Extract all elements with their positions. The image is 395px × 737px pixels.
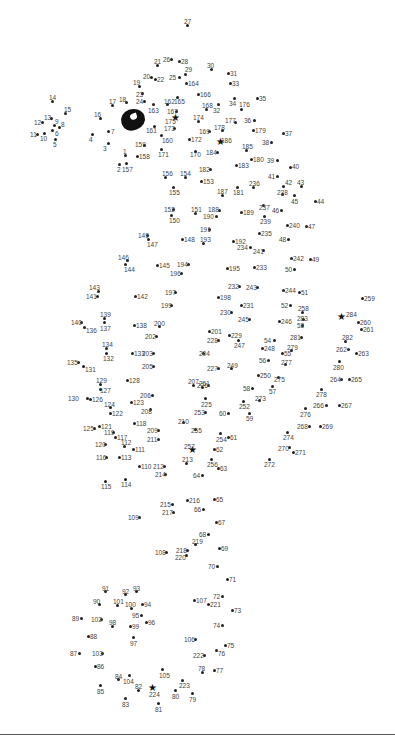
dot-number-label: 8 (61, 121, 65, 128)
dot-number-label: 83 (122, 701, 129, 708)
dot-number-label: 190 (203, 213, 214, 220)
dot-number-label: 196 (170, 270, 181, 277)
dot-number-label: 101 (113, 598, 124, 605)
dot-number-label: 188 (208, 206, 219, 213)
dot-number-label: 14 (49, 94, 56, 101)
dot-number-label: 128 (129, 377, 140, 384)
dot-number-label: 218 (176, 547, 187, 554)
dot-point (157, 438, 160, 441)
dot-number-label: 135 (67, 359, 78, 366)
dot-number-label: 68 (199, 531, 206, 538)
dot-number-label: 100 (125, 601, 136, 608)
dot-number-label: 284 (346, 311, 357, 318)
dot-number-label: 147 (147, 241, 158, 248)
dot-number-label: 143 (89, 284, 100, 291)
dot-number-label: 159 (135, 141, 146, 148)
dot-number-label: 182 (199, 166, 210, 173)
dot-number-label: 139 (100, 311, 111, 318)
dot-number-label: 9 (55, 118, 59, 125)
eye-shape (118, 106, 148, 134)
dot-point (280, 209, 283, 212)
dot-number-label: 149 (138, 232, 149, 239)
dot-number-label: 265 (351, 376, 362, 383)
dot-number-label: 92 (122, 588, 129, 595)
dot-number-label: 96 (148, 619, 155, 626)
dot-number-label: 246 (281, 318, 292, 325)
dot-number-label: 229 (231, 332, 242, 339)
dot-number-label: 22 (157, 76, 164, 83)
dot-number-label: 277 (281, 359, 292, 366)
dot-number-label: 148 (184, 236, 195, 243)
dot-point (86, 397, 89, 400)
dot-number-label: 171 (158, 151, 169, 158)
dot-number-label: 127 (100, 387, 111, 394)
dot-number-label: 199 (161, 302, 172, 309)
dot-number-label: 89 (72, 615, 79, 622)
dot-number-label: 187 (217, 188, 228, 195)
dot-point (276, 159, 279, 162)
dot-number-label: 198 (220, 294, 231, 301)
dot-point (273, 339, 276, 342)
dot-point (80, 617, 83, 620)
dot-number-label: 221 (210, 601, 221, 608)
dot-number-label: 33 (232, 80, 239, 87)
dot-number-label: 274 (283, 434, 294, 441)
dot-number-label: 252 (239, 403, 250, 410)
dot-number-label: 275 (274, 376, 285, 383)
dot-to-dot-puzzle: 1234567891011121314151617181920212223242… (0, 0, 395, 737)
dot-number-label: 237 (259, 204, 270, 211)
dot-number-label: 272 (264, 461, 275, 468)
dot-point (207, 533, 210, 536)
dot-point (51, 129, 54, 132)
dot-number-label: 154 (180, 170, 191, 177)
dot-number-label: 121 (101, 423, 112, 430)
dot-number-label: 241 (253, 248, 264, 255)
dot-number-label: 79 (189, 696, 196, 703)
dot-point (128, 674, 131, 677)
dot-number-label: 118 (136, 420, 146, 427)
dot-number-label: 183 (238, 162, 249, 169)
dot-number-label: 7 (111, 128, 115, 135)
dot-number-label: 222 (193, 652, 204, 659)
dot-number-label: 160 (162, 137, 173, 144)
dot-number-label: 36 (244, 117, 251, 124)
dot-number-label: 197 (165, 289, 176, 296)
dot-point (221, 624, 224, 627)
dot-number-label: 20 (143, 73, 150, 80)
dot-number-label: 208 (141, 408, 152, 415)
dot-number-label: 232 (228, 283, 239, 290)
dot-number-label: 95 (132, 612, 139, 619)
dot-number-label: 258 (298, 305, 309, 312)
dot-number-label: 278 (316, 391, 327, 398)
dot-number-label: 247 (234, 342, 245, 349)
dot-number-label: 145 (159, 262, 170, 269)
dot-number-label: 77 (216, 667, 223, 674)
dot-number-label: 25 (169, 74, 176, 81)
dot-number-label: 58 (243, 385, 250, 392)
dot-point (289, 304, 292, 307)
dot-number-label: 267 (341, 402, 352, 409)
dot-number-label: 30 (207, 62, 214, 69)
dot-number-label: 13 (44, 114, 51, 121)
dot-number-label: 120 (95, 441, 106, 448)
dot-number-label: 152 (164, 206, 175, 213)
dot-number-label: 111 (135, 446, 145, 453)
dot-number-label: 219 (192, 538, 203, 545)
dot-number-label: 174 (193, 114, 204, 121)
dot-number-label: 2 (117, 166, 121, 173)
dot-number-label: 253 (194, 409, 205, 416)
dot-number-label: 84 (115, 673, 122, 680)
dot-number-label: 93 (133, 585, 140, 592)
dot-number-label: 230 (220, 309, 231, 316)
dot-number-label: 251 (199, 380, 210, 387)
dot-number-label: 3 (103, 145, 107, 152)
dot-number-label: 6 (55, 130, 59, 137)
dot-number-label: 165 (174, 98, 185, 105)
dot-number-label: 170 (190, 151, 201, 158)
dot-number-label: 46 (272, 207, 279, 214)
dot-number-label: 235 (261, 230, 272, 237)
dot-point (267, 359, 270, 362)
dot-number-label: 269 (322, 423, 333, 430)
dot-point (253, 119, 256, 122)
dot-number-label: 48 (279, 236, 286, 243)
